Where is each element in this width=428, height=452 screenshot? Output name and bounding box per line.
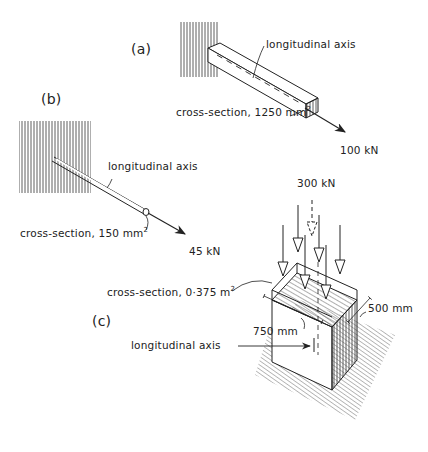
panel-c-axis-label: longitudinal axis xyxy=(131,339,221,351)
panel-b-force-label: 45 kN xyxy=(189,245,221,257)
panel-b-label: (b) xyxy=(41,91,61,107)
diagram-canvas: (a) longitudinal axis cross-section, 125… xyxy=(0,0,428,452)
panel-a-cross-section-label: cross-section, 1250 mm2 xyxy=(176,105,311,118)
panel-c-dim-width: 750 mm xyxy=(253,325,298,337)
panel-c-dim-depth: 500 mm xyxy=(368,302,413,314)
panel-a-label: (a) xyxy=(131,41,151,57)
panel-a-axis-label: longitudinal axis xyxy=(266,38,356,50)
panel-b-drawing xyxy=(19,121,185,234)
panel-b-axis-label: longitudinal axis xyxy=(108,160,198,172)
panel-c-force-label: 300 kN xyxy=(297,177,336,189)
panel-c-label: (c) xyxy=(92,313,111,329)
panel-c-cross-section-label: cross-section, 0·375 m2 xyxy=(107,285,235,298)
panel-b-cross-section-label: cross-section, 150 mm2 xyxy=(20,226,148,239)
panel-a-force-label: 100 kN xyxy=(340,144,379,156)
